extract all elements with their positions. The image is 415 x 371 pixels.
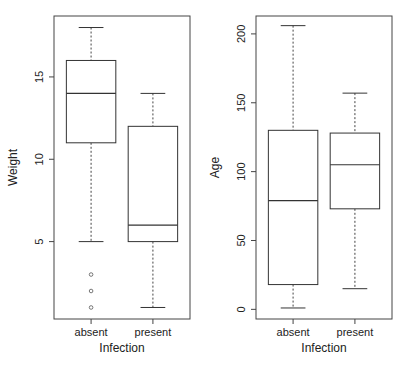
y-tick-label: 50: [235, 234, 247, 246]
box-present: [330, 93, 379, 289]
y-tick-label: 0: [235, 306, 247, 312]
x-tick-label: present: [135, 326, 172, 338]
y-tick-label: 150: [235, 94, 247, 112]
panel-age: 050100150200AgeInfectionabsentpresent: [208, 16, 392, 355]
outlier-point: [89, 273, 93, 277]
outlier-point: [89, 289, 93, 293]
y-tick-label: 5: [33, 239, 45, 245]
y-tick-label: 100: [235, 162, 247, 180]
y-axis-label: Age: [208, 157, 222, 179]
box-absent: [268, 26, 317, 308]
x-tick-label: absent: [75, 326, 108, 338]
boxplot-figure: 51015WeightInfectionabsentpresent0501001…: [0, 0, 415, 371]
box-present: [128, 93, 177, 307]
y-axis-label: Weight: [6, 148, 20, 186]
panel-weight: 51015WeightInfectionabsentpresent: [6, 16, 190, 355]
x-axis-label: Infection: [99, 341, 144, 355]
y-tick-label: 10: [33, 153, 45, 165]
x-tick-label: present: [337, 326, 374, 338]
box-absent: [66, 28, 115, 310]
y-tick-label: 15: [33, 71, 45, 83]
x-tick-label: absent: [277, 326, 310, 338]
y-tick-label: 200: [235, 25, 247, 43]
outlier-point: [89, 306, 93, 310]
x-axis-label: Infection: [301, 341, 346, 355]
